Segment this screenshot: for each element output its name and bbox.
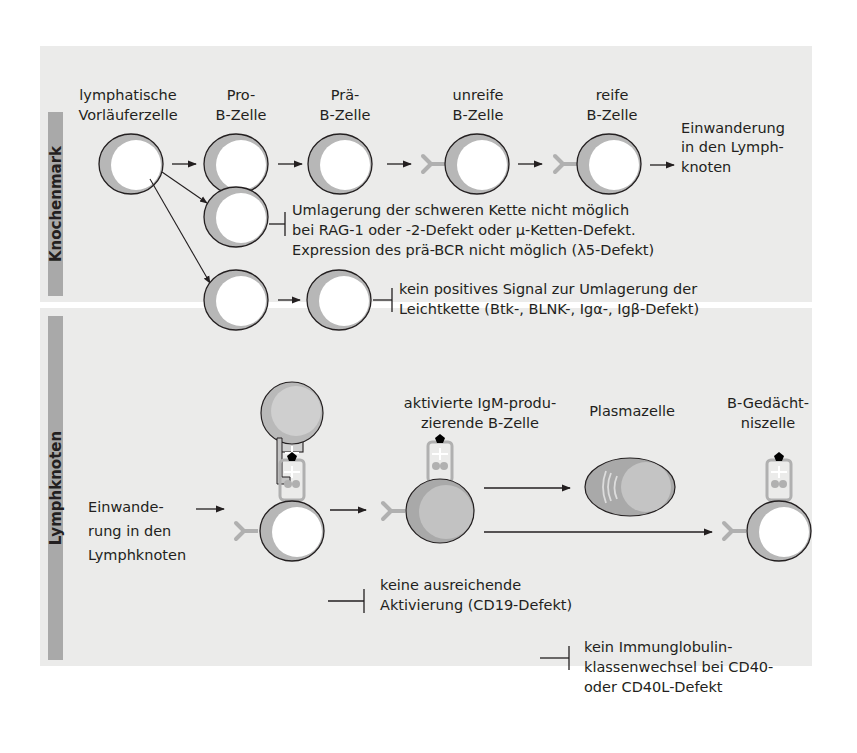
svg-text:lymphatische: lymphatische <box>79 87 176 103</box>
svg-text:Lymphknoten: Lymphknoten <box>88 547 186 563</box>
memory-b-cell-icon <box>724 452 811 561</box>
light-chain-defect-note: kein positives Signal zur Umlagerung der… <box>399 281 699 317</box>
cd40-defect-note: kein Immunglobulin- klassenwechsel bei C… <box>584 639 773 695</box>
svg-text:Vorläuferzelle: Vorläuferzelle <box>78 107 177 123</box>
plasma-cell-label: Plasmazelle <box>589 403 675 419</box>
branch-arrow-icon <box>162 172 207 203</box>
svg-text:Einwande-: Einwande- <box>88 499 164 515</box>
inhibition-bar-icon <box>269 212 285 236</box>
stage-label-pre-b-cell: Prä- B-Zelle <box>319 87 370 123</box>
svg-text:Expression des prä-BCR nicht m: Expression des prä-BCR nicht möglich (λ5… <box>292 242 654 258</box>
stage-label-lymphoid-progenitor: lymphatische Vorläuferzelle <box>78 87 177 123</box>
branch-arrow-icon <box>150 179 210 283</box>
svg-text:rung in den: rung in den <box>88 523 171 539</box>
svg-text:keine ausreichende: keine ausreichende <box>380 577 521 593</box>
svg-text:kein positives Signal zur Umla: kein positives Signal zur Umlagerung der <box>399 281 697 297</box>
svg-text:knoten: knoten <box>681 159 731 175</box>
blocked-pre-b-cell-1-icon <box>204 270 268 330</box>
svg-text:zierende B-Zelle: zierende B-Zelle <box>421 415 539 431</box>
svg-text:klassenwechsel bei CD40-: klassenwechsel bei CD40- <box>584 659 773 675</box>
inhibition-bar-icon <box>540 646 569 670</box>
stage-label-pro-b-cell: Pro- B-Zelle <box>215 87 266 123</box>
stage-label-immature-b-cell: unreife B-Zelle <box>452 87 503 123</box>
immature-b-cell-icon <box>423 134 509 194</box>
svg-text:B-Zelle: B-Zelle <box>586 107 637 123</box>
stage-label-mature-b-cell: reife B-Zelle <box>586 87 637 123</box>
exit-to-lymph-node-label: Einwanderung in den Lymph- knoten <box>681 120 785 175</box>
svg-text:Prä-: Prä- <box>331 87 360 103</box>
svg-text:kein Immunglobulin-: kein Immunglobulin- <box>584 639 733 655</box>
b-cell-development-diagram: lymphatische Vorläuferzelle Pro- B-Zelle… <box>0 0 857 753</box>
svg-text:in den Lymph-: in den Lymph- <box>681 139 784 155</box>
svg-text:B-Zelle: B-Zelle <box>319 107 370 123</box>
plasma-cell-icon <box>585 458 675 516</box>
svg-text:oder CD40L-Defekt: oder CD40L-Defekt <box>584 679 723 695</box>
mature-b-cell-icon <box>555 134 641 194</box>
svg-text:Pro-: Pro- <box>227 87 256 103</box>
memory-b-cell-label: B-Gedächt- niszelle <box>727 395 809 431</box>
svg-text:aktivierte IgM-produ-: aktivierte IgM-produ- <box>404 395 556 411</box>
inhibition-bar-icon <box>328 589 364 613</box>
cd19-defect-note: keine ausreichende Aktivierung (CD19-Def… <box>380 577 572 613</box>
inhibition-bar-icon <box>373 288 392 312</box>
lymph-node-entry-label: Einwande- rung in den Lymphknoten <box>88 499 186 563</box>
svg-text:unreife: unreife <box>453 87 504 103</box>
pro-b-cell-icon <box>204 134 268 194</box>
activated-igm-b-cell-icon <box>383 434 474 543</box>
svg-text:niszelle: niszelle <box>741 415 795 431</box>
svg-text:bei RAG-1 oder -2-Defekt oder: bei RAG-1 oder -2-Defekt oder μ-Ketten-D… <box>292 222 636 238</box>
svg-text:B-Zelle: B-Zelle <box>452 107 503 123</box>
svg-text:B-Zelle: B-Zelle <box>215 107 266 123</box>
naive-b-cell-icon <box>236 452 324 561</box>
svg-text:reife: reife <box>596 87 629 103</box>
activated-b-cell-label: aktivierte IgM-produ- zierende B-Zelle <box>404 395 556 431</box>
svg-text:Aktivierung (CD19-Defekt): Aktivierung (CD19-Defekt) <box>380 597 572 613</box>
pre-b-cell-icon <box>308 134 372 194</box>
heavy-chain-defect-note: Umlagerung der schweren Kette nicht mögl… <box>292 202 654 258</box>
blocked-pre-b-cell-2-icon <box>307 270 371 330</box>
svg-text:Einwanderung: Einwanderung <box>681 120 785 136</box>
svg-text:B-Gedächt-: B-Gedächt- <box>727 395 809 411</box>
svg-text:Umlagerung der schweren Kette: Umlagerung der schweren Kette nicht mögl… <box>292 202 629 218</box>
blocked-pro-b-cell-icon <box>204 187 268 247</box>
svg-text:Leichtkette (Btk-, BLNK-, Igα-: Leichtkette (Btk-, BLNK-, Igα-, Igβ-Defe… <box>399 301 699 317</box>
